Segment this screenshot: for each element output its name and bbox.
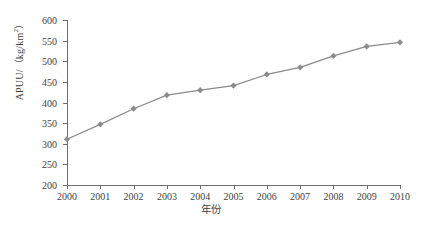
data-point-marker — [97, 121, 103, 127]
y-tick-label: 600 — [42, 15, 57, 26]
y-axis-title: APUU/（kg/km2） — [11, 0, 26, 125]
chart-container: APUU/（kg/km2） 60055050045040035030025020… — [0, 0, 422, 231]
x-tick — [333, 185, 334, 189]
y-tick-label: 450 — [42, 76, 57, 87]
x-tick — [100, 185, 101, 189]
data-point-marker — [164, 92, 170, 98]
x-tick — [167, 185, 168, 189]
y-tick-label: 300 — [42, 138, 57, 149]
y-axis-title-main: APUU/（kg/km — [14, 33, 25, 101]
data-point-marker — [364, 43, 370, 49]
x-tick — [400, 185, 401, 189]
x-tick — [300, 185, 301, 189]
y-tick-label: 350 — [42, 118, 57, 129]
data-point-marker — [197, 87, 203, 93]
data-point-marker — [264, 71, 270, 77]
y-axis-title-tail: ） — [14, 19, 25, 29]
x-tick — [367, 185, 368, 189]
x-tick — [267, 185, 268, 189]
data-series-line — [67, 20, 400, 185]
data-point-marker — [230, 82, 236, 88]
y-axis-title-exponent: 2 — [12, 29, 20, 33]
data-point-marker — [297, 64, 303, 70]
series-polyline — [67, 42, 400, 139]
x-tick — [200, 185, 201, 189]
y-tick-label: 200 — [42, 180, 57, 191]
y-tick-label: 500 — [42, 56, 57, 67]
x-tick — [134, 185, 135, 189]
data-point-marker — [330, 53, 336, 59]
y-tick-label: 550 — [42, 35, 57, 46]
data-point-marker — [397, 39, 403, 45]
data-point-marker — [131, 106, 137, 112]
y-tick-label: 400 — [42, 97, 57, 108]
x-axis-title: 年份 — [0, 201, 422, 216]
x-tick — [234, 185, 235, 189]
y-tick-label: 250 — [42, 159, 57, 170]
data-point-marker — [64, 136, 70, 142]
plot-area: 600550500450400350300250200 200020012002… — [67, 20, 400, 185]
x-tick — [67, 185, 68, 189]
